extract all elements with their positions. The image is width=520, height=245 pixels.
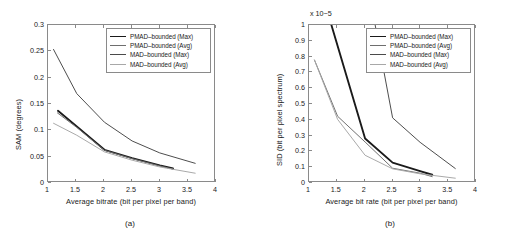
x-tick-label: 2 <box>362 185 366 194</box>
y-axis-multiplier-b: x 10−5 <box>310 9 332 18</box>
y-tick-label: 0 <box>21 178 44 187</box>
panel-caption-b: (b) <box>260 219 520 228</box>
x-tick-mark <box>308 179 309 182</box>
y-tick-label: 0.1 <box>21 125 44 134</box>
legend-item: MAD–bounded (Avg) <box>110 60 206 69</box>
y-tick-mark <box>309 166 312 167</box>
chart-panel-b: SID (bit per pixel spectrum) Average bit… <box>260 0 520 245</box>
x-tick-mark <box>336 179 337 182</box>
x-tick-mark <box>392 179 393 182</box>
y-tick-label: 0.4 <box>282 114 305 123</box>
x-tick-mark <box>75 179 76 182</box>
y-tick-mark <box>309 87 312 88</box>
y-tick-label: 0.25 <box>21 46 44 55</box>
legend-swatch <box>110 36 126 37</box>
x-tick-label: 3.5 <box>182 185 192 194</box>
legend-swatch <box>110 54 126 55</box>
x-tick-mark <box>447 179 448 182</box>
legend-swatch <box>370 64 386 65</box>
chart-panel-a: SAM (degrees) Average bitrate (bit per p… <box>0 0 260 245</box>
y-tick-mark <box>48 24 51 25</box>
y-tick-mark <box>309 182 312 183</box>
y-tick-mark <box>48 156 51 157</box>
legend-swatch <box>110 45 126 46</box>
series-line <box>58 111 173 169</box>
legend-label: PMAD–bounded (Max) <box>130 33 193 40</box>
x-tick-mark <box>47 179 48 182</box>
legend-b: PMAD–bounded (Max)PMAD–bounded (Avg)MAD–… <box>366 28 471 73</box>
x-tick-mark <box>131 179 132 182</box>
x-tick-mark <box>103 179 104 182</box>
y-tick-mark <box>309 119 312 120</box>
x-tick-mark <box>215 179 216 182</box>
x-tick-mark-top <box>103 25 104 28</box>
y-tick-mark <box>48 77 51 78</box>
y-tick-mark <box>309 150 312 151</box>
y-tick-label: 0.15 <box>21 99 44 108</box>
legend-item: MAD–bounded (Max) <box>110 50 206 59</box>
y-tick-label: 0.6 <box>282 83 305 92</box>
y-tick-mark <box>309 56 312 57</box>
y-tick-label: 0.3 <box>21 20 44 29</box>
y-tick-mark <box>309 103 312 104</box>
x-tick-mark-top <box>47 25 48 28</box>
x-tick-mark-top <box>75 25 76 28</box>
y-tick-mark <box>48 129 51 130</box>
x-axis-title-a: Average bitrate (bit per pixel per band) <box>47 197 215 206</box>
y-tick-mark <box>48 50 51 51</box>
y-tick-label: 0.2 <box>282 146 305 155</box>
y-tick-label: 0.5 <box>282 99 305 108</box>
x-axis-title-b: Average bit rate (bit per pixel per band… <box>308 197 475 206</box>
legend-a: PMAD–bounded (Max)PMAD–bounded (Avg)MAD–… <box>106 28 211 73</box>
y-tick-label: 0.8 <box>282 51 305 60</box>
x-tick-label: 2 <box>101 185 105 194</box>
x-tick-mark <box>475 179 476 182</box>
x-tick-mark-top <box>215 25 216 28</box>
y-tick-label: 0.7 <box>282 67 305 76</box>
panel-caption-a: (a) <box>0 219 260 228</box>
x-tick-mark-top <box>336 25 337 28</box>
y-tick-mark <box>48 182 51 183</box>
x-tick-mark <box>159 179 160 182</box>
legend-item: PMAD–bounded (Max) <box>370 32 466 41</box>
x-tick-label: 3 <box>417 185 421 194</box>
legend-item: PMAD–bounded (Avg) <box>370 41 466 50</box>
legend-label: MAD–bounded (Max) <box>130 51 189 58</box>
legend-label: MAD–bounded (Max) <box>390 51 449 58</box>
x-tick-label: 1.5 <box>331 185 341 194</box>
x-tick-label: 4 <box>213 185 217 194</box>
x-tick-label: 4 <box>473 185 477 194</box>
y-tick-label: 0.05 <box>21 151 44 160</box>
x-tick-mark-top <box>308 25 309 28</box>
y-tick-label: 0.1 <box>282 162 305 171</box>
legend-label: PMAD–bounded (Max) <box>390 33 453 40</box>
y-tick-label: 0.2 <box>21 72 44 81</box>
legend-swatch <box>110 64 126 65</box>
legend-swatch <box>370 45 386 46</box>
legend-swatch <box>370 54 386 55</box>
x-tick-label: 3 <box>157 185 161 194</box>
legend-label: PMAD–bounded (Avg) <box>130 42 192 49</box>
series-line <box>54 123 196 173</box>
legend-label: MAD–bounded (Avg) <box>130 61 188 68</box>
legend-label: MAD–bounded (Avg) <box>390 61 448 68</box>
y-tick-mark <box>309 24 312 25</box>
x-tick-mark-top <box>475 25 476 28</box>
x-tick-label: 1 <box>306 185 310 194</box>
y-tick-mark <box>309 71 312 72</box>
x-tick-label: 1.5 <box>70 185 80 194</box>
legend-item: PMAD–bounded (Max) <box>110 32 206 41</box>
figure-container: SAM (degrees) Average bitrate (bit per p… <box>0 0 520 245</box>
x-tick-label: 3.5 <box>442 185 452 194</box>
x-tick-label: 2.5 <box>126 185 136 194</box>
series-line <box>57 113 173 169</box>
legend-item: MAD–bounded (Avg) <box>370 60 466 69</box>
x-tick-label: 2.5 <box>387 185 397 194</box>
y-tick-mark <box>48 103 51 104</box>
y-tick-label: 0 <box>282 178 305 187</box>
y-tick-label: 0.3 <box>282 130 305 139</box>
x-tick-label: 1 <box>45 185 49 194</box>
x-tick-mark <box>364 179 365 182</box>
x-tick-mark <box>419 179 420 182</box>
legend-label: PMAD–bounded (Avg) <box>390 42 452 49</box>
